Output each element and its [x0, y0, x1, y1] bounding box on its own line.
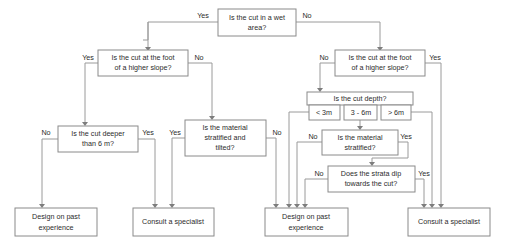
node-slope-right[interactable]: Is the cut at the foot of a higher slope… — [335, 50, 425, 76]
terminal-consult-right-line1: Consult a specialist — [418, 217, 480, 226]
terminal-design-right[interactable]: Design on past experience — [265, 208, 348, 236]
node-stratified[interactable]: Is the material stratified? — [322, 130, 398, 155]
node-wet-area-line1: Is the cut in a wet — [229, 13, 285, 22]
terminal-design-right-line1: Design on past — [282, 212, 330, 221]
edge-depth-gt6m — [411, 112, 435, 208]
edge-deeper-no — [39, 139, 58, 208]
node-cut-depth-header: Is the cut depth? — [333, 94, 386, 103]
edge-slope-left-no — [188, 63, 215, 120]
terminal-design-left[interactable]: Design on past experience — [15, 208, 97, 236]
node-wet-area[interactable]: Is the cut in a wet area? — [218, 9, 296, 36]
edge-label-tilted-yes: Yes — [169, 128, 181, 137]
edge-dip-no — [302, 179, 328, 208]
terminal-design-left-line1: Design on past — [32, 212, 80, 221]
edge-wet-yes — [143, 22, 218, 51]
edge-label-wet-yes: Yes — [197, 11, 209, 20]
terminal-design-left-line2: experience — [38, 223, 73, 232]
node-stratified-tilted-line1: Is the material — [202, 123, 248, 132]
terminal-consult-left[interactable]: Consult a specialist — [133, 208, 214, 236]
edge-label-tilted-no: No — [272, 128, 281, 137]
node-cut-depth-option-gt6m: > 6m — [388, 108, 404, 117]
node-wet-area-line2: area? — [248, 23, 266, 32]
edge-label-deeper-yes: Yes — [142, 128, 154, 137]
node-slope-right-line2: of a higher slope? — [351, 63, 408, 72]
edge-label-stratified-no: No — [308, 132, 317, 141]
node-deeper-6m[interactable]: Is the cut deeper than 6 m? — [58, 126, 138, 152]
edge-slope-right-yes — [425, 63, 444, 208]
flowchart-canvas: Yes No Yes No No Yes No Yes Yes No No Ye… — [0, 0, 507, 249]
flowchart-diagram: Yes No Yes No No Yes No Yes Yes No No Ye… — [0, 0, 507, 249]
node-slope-right-line1: Is the cut at the foot — [348, 53, 411, 62]
edge-dip-yes — [415, 179, 427, 208]
edge-label-slope-right-yes: Yes — [429, 53, 441, 62]
terminal-consult-right[interactable]: Consult a specialist — [408, 208, 490, 236]
edge-slope-left-yes — [82, 63, 98, 126]
node-slope-left-line2: of a higher slope? — [114, 63, 171, 72]
edge-deeper-yes — [138, 139, 158, 208]
node-strata-dip-line2: towards the cut? — [345, 179, 398, 188]
node-strata-dip-line1: Does the strata dip — [341, 169, 401, 178]
node-stratified-tilted-line2: stratified and — [204, 133, 245, 142]
node-slope-left[interactable]: Is the cut at the foot of a higher slope… — [98, 50, 188, 76]
edge-depth-3to6m — [357, 120, 363, 130]
node-cut-depth-option-lt3m: < 3m — [316, 108, 332, 117]
edge-label-wet-no: No — [302, 11, 311, 20]
node-stratified-tilted-line3: tilted? — [215, 143, 234, 152]
edge-label-dip-no: No — [314, 169, 323, 178]
edge-label-deeper-no: No — [41, 128, 50, 137]
node-stratified-tilted[interactable]: Is the material stratified and tilted? — [185, 120, 266, 156]
node-stratified-line2: stratified? — [344, 143, 375, 152]
node-stratified-line1: Is the material — [337, 133, 383, 142]
terminal-design-right-line2: experience — [288, 223, 323, 232]
edge-label-slope-left-yes: Yes — [82, 53, 94, 62]
node-slope-left-line1: Is the cut at the foot — [111, 53, 174, 62]
terminal-consult-left-line1: Consult a specialist — [142, 217, 204, 226]
node-deeper-6m-line1: Is the cut deeper — [71, 129, 125, 138]
node-cut-depth[interactable]: Is the cut depth? < 3m 3 - 6m > 6m — [307, 92, 413, 120]
edge-label-dip-yes: Yes — [418, 169, 430, 178]
edge-label-slope-left-no: No — [194, 53, 203, 62]
edge-label-stratified-yes: Yes — [400, 132, 412, 141]
edge-tilted-no — [266, 138, 279, 208]
edge-label-slope-right-no: No — [319, 53, 328, 62]
node-deeper-6m-line2: than 6 m? — [82, 139, 114, 148]
edge-tilted-yes — [169, 138, 185, 208]
edge-wet-no — [296, 22, 383, 51]
node-strata-dip[interactable]: Does the strata dip towards the cut? — [328, 166, 415, 192]
node-cut-depth-option-3to6m: 3 - 6m — [351, 108, 371, 117]
edge-slope-right-no — [317, 63, 335, 92]
